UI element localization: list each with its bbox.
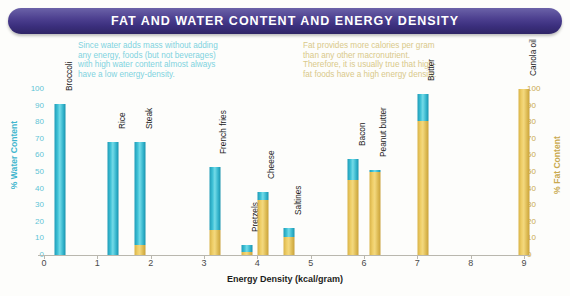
bar-bacon[interactable]: Bacon [348, 159, 359, 255]
fat-segment [135, 245, 146, 255]
x-tick-4: 4 [255, 258, 260, 268]
x-tick-7: 7 [415, 258, 420, 268]
x-tick-2: 2 [148, 258, 153, 268]
water-segment [417, 94, 428, 121]
fat-segment [348, 180, 359, 255]
bar-steak[interactable]: Steak [135, 142, 146, 255]
bar-label: Steak [143, 108, 153, 129]
bar-label: Rice [116, 113, 126, 130]
water-segment [241, 245, 252, 252]
bar-broccoli[interactable]: Broccoli [55, 104, 66, 255]
bar-french-fries[interactable]: French fries [209, 167, 220, 255]
water-segment [284, 228, 295, 236]
fat-segment [369, 172, 380, 255]
chart-title: FAT AND WATER CONTENT AND ENERGY DENSITY [111, 14, 459, 28]
bar-butter[interactable]: Butter [417, 94, 428, 255]
bar-peanut-butter[interactable]: Peanut butter [369, 170, 380, 255]
fat-segment [209, 230, 220, 255]
water-segment [55, 104, 66, 255]
chart-figure: FAT AND WATER CONTENT AND ENERGY DENSITY… [0, 0, 570, 296]
x-tick-6: 6 [361, 258, 366, 268]
water-segment [209, 167, 220, 230]
x-tick-9: 9 [521, 258, 526, 268]
fat-segment [241, 252, 252, 255]
bar-label: Peanut butter [378, 108, 388, 158]
y-tick-100: 100 [527, 85, 561, 93]
bar-label: Butter [426, 59, 436, 81]
fat-segment [519, 89, 530, 255]
y-tick-0: 0 [527, 251, 561, 259]
bar-label: Canola oil [527, 39, 537, 76]
y-tick-20: 20 [527, 218, 561, 226]
bar-label: Broccoli [63, 61, 73, 91]
x-tick-3: 3 [201, 258, 206, 268]
fat-segment [284, 237, 295, 255]
x-tick-5: 5 [308, 258, 313, 268]
y-tick-90: 90 [527, 102, 561, 110]
x-tick-8: 8 [468, 258, 473, 268]
y-tick-100: 100 [10, 85, 44, 93]
x-tick-0: 0 [41, 258, 46, 268]
y-tick-10: 10 [10, 234, 44, 242]
y-axis-left-title: % Water Content [9, 110, 19, 200]
x-axis-title: Energy Density (kcal/gram) [0, 274, 570, 284]
y-tick-30: 30 [10, 201, 44, 209]
y-axis-right-title: % Fat Content [552, 120, 562, 210]
water-segment [348, 159, 359, 181]
y-tick-10: 10 [527, 234, 561, 242]
annotation-fat-content: Fat provides more calories per gram than… [303, 41, 503, 80]
chart-title-bar: FAT AND WATER CONTENT AND ENERGY DENSITY [8, 8, 562, 34]
water-segment [108, 142, 119, 255]
bar-label: Cheese [266, 150, 276, 179]
bar-pretzels[interactable]: Pretzels [241, 245, 252, 255]
water-segment [135, 142, 146, 245]
fat-segment [257, 200, 268, 255]
bar-label: Bacon [356, 122, 366, 146]
bar-saltines[interactable]: Saltines [284, 228, 295, 255]
bar-canola-oil[interactable]: Canola oil [519, 89, 530, 255]
y-tick-90: 90 [10, 102, 44, 110]
annotation-water-content: Since water adds mass without adding any… [78, 41, 274, 80]
y-tick-20: 20 [10, 218, 44, 226]
x-tick-1: 1 [95, 258, 100, 268]
plot-area: BroccoliRiceSteakFrench friesPretzelsChe… [44, 89, 524, 255]
water-segment [257, 192, 268, 200]
fat-segment [417, 121, 428, 255]
bar-label: Saltines [292, 186, 302, 216]
bar-label: French fries [218, 110, 228, 154]
bar-cheese[interactable]: Cheese [257, 192, 268, 255]
bar-rice[interactable]: Rice [108, 142, 119, 255]
x-axis-baseline [38, 255, 530, 256]
